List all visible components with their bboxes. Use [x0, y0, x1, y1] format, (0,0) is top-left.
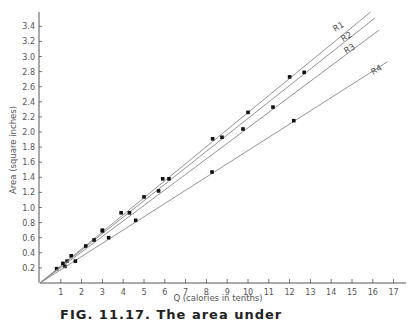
y-tick-label: 1.8 — [22, 143, 35, 152]
data-point — [211, 137, 215, 141]
y-tick-label: 3.2 — [22, 37, 35, 46]
y-tick-label: 1.4 — [22, 173, 35, 182]
y-tick-label: 1.2 — [22, 188, 35, 197]
y-tick-label: 3.0 — [22, 53, 35, 62]
x-tick-label: 14 — [326, 288, 336, 297]
y-tick-label: 1.6 — [22, 158, 35, 167]
x-tick-label: 16 — [368, 288, 378, 297]
line-r3 — [40, 30, 379, 283]
y-tick-label: 0.6 — [22, 234, 35, 243]
x-axis-label: Q (calories in tenths) — [173, 293, 262, 303]
y-tick-label: 0.4 — [22, 249, 35, 258]
y-tick-label: 2.4 — [22, 98, 35, 107]
data-point — [246, 111, 250, 115]
data-point — [167, 177, 171, 181]
y-tick-label: 3.4 — [22, 22, 35, 31]
data-point — [107, 236, 111, 240]
y-tick-label: 0.8 — [22, 219, 35, 228]
y-tick-label: 2.6 — [22, 83, 35, 92]
x-tick-label: 17 — [389, 288, 399, 297]
data-point — [210, 170, 214, 174]
data-point — [128, 211, 132, 215]
data-point — [220, 135, 224, 139]
data-point — [157, 189, 161, 193]
data-point — [74, 259, 78, 263]
x-tick-label: 13 — [305, 288, 315, 297]
x-tick-label: 3 — [100, 288, 105, 297]
data-point — [292, 119, 296, 123]
series-label-r4: R4 — [369, 62, 384, 76]
y-tick-label: 2.8 — [22, 68, 35, 77]
x-tick-label: 4 — [121, 288, 126, 297]
x-tick-label: 5 — [141, 288, 146, 297]
line-r2 — [40, 18, 375, 283]
data-point — [134, 219, 138, 223]
x-tick-label: 15 — [347, 288, 357, 297]
x-tick-label: 12 — [285, 288, 295, 297]
x-tick-label: 11 — [264, 288, 274, 297]
x-tick-label: 2 — [79, 288, 84, 297]
x-tick-label: 6 — [162, 288, 167, 297]
y-tick-label: 1.0 — [22, 204, 35, 213]
data-point — [142, 195, 146, 199]
x-tick-label: 1 — [58, 288, 63, 297]
data-point — [161, 177, 165, 181]
line-r1 — [40, 12, 371, 283]
data-point — [92, 238, 96, 242]
data-point — [288, 75, 292, 79]
y-tick-label: 2.0 — [22, 128, 35, 137]
y-tick-label: 2.2 — [22, 113, 35, 122]
data-point — [119, 211, 123, 215]
figure-caption-clipped: FIG. 11.17. The area under — [60, 307, 282, 322]
data-point — [302, 71, 306, 75]
y-axis-label: Area (square inches) — [8, 106, 18, 194]
data-point — [84, 244, 88, 248]
data-point — [101, 229, 105, 233]
data-point — [271, 105, 275, 109]
data-point — [241, 127, 245, 131]
y-tick-label: 0.2 — [22, 264, 35, 273]
